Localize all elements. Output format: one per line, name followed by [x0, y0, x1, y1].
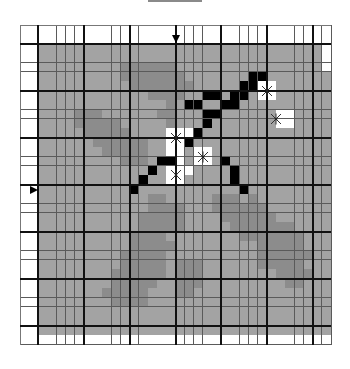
major-gridline-horizontal: [20, 278, 331, 280]
grid-cell[interactable]: [322, 63, 332, 73]
grid-cell[interactable]: [322, 194, 332, 204]
grid-cell[interactable]: [322, 251, 332, 261]
x-marker-icon[interactable]: [170, 132, 182, 144]
major-gridline-horizontal: [20, 90, 331, 92]
grid-cell[interactable]: [322, 147, 332, 157]
arrow-down-icon: [172, 35, 180, 43]
major-gridline-horizontal: [20, 325, 331, 327]
grid-cell[interactable]: [322, 100, 332, 110]
x-marker-icon[interactable]: [170, 169, 182, 181]
major-gridline-horizontal: [20, 231, 331, 233]
major-gridline-horizontal: [20, 184, 331, 186]
grid-cell[interactable]: [322, 110, 332, 120]
grid-cell[interactable]: [322, 298, 332, 308]
grid-cell[interactable]: [322, 335, 332, 345]
x-marker-icon[interactable]: [270, 113, 282, 125]
arrow-right-icon: [30, 186, 38, 194]
x-marker-icon[interactable]: [197, 151, 209, 163]
grid-cell[interactable]: [322, 157, 332, 167]
grid-cell[interactable]: [322, 241, 332, 251]
title-bar: [148, 0, 202, 2]
grid-cell[interactable]: [322, 288, 332, 298]
grid-cell[interactable]: [322, 53, 332, 63]
x-marker-icon[interactable]: [261, 85, 273, 97]
pixel-grid-board[interactable]: [20, 25, 331, 345]
grid-cell[interactable]: [322, 204, 332, 214]
